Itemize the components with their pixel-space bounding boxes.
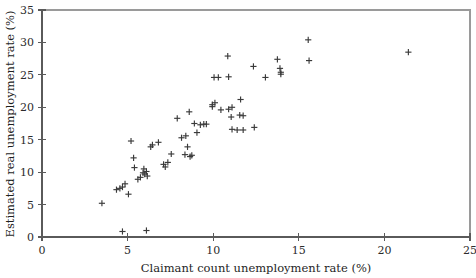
x-tick-label: 20	[377, 244, 391, 257]
x-tick-label: 0	[39, 244, 46, 257]
y-tick-label: 10	[20, 166, 34, 179]
x-tick-label: 25	[463, 244, 476, 257]
x-tick-label: 10	[206, 244, 220, 257]
y-tick-label: 15	[20, 134, 34, 147]
y-tick-label: 20	[20, 101, 34, 114]
y-tick-label: 30	[20, 36, 34, 49]
scatter-chart: 051015202530350510152025 Claimant count …	[0, 0, 476, 278]
x-tick-label: 15	[292, 244, 306, 257]
y-axis-title: Estimated real unemployment rate (%)	[3, 10, 17, 237]
x-tick-label: 5	[124, 244, 131, 257]
x-axis-title: Claimant count unemployment rate (%)	[141, 261, 372, 275]
y-tick-label: 25	[20, 69, 34, 82]
plot-svg: 051015202530350510152025 Claimant count …	[0, 0, 476, 278]
chart-background	[0, 0, 476, 278]
y-tick-label: 5	[27, 199, 34, 212]
y-tick-label: 35	[20, 4, 34, 17]
y-tick-label: 0	[27, 231, 34, 244]
